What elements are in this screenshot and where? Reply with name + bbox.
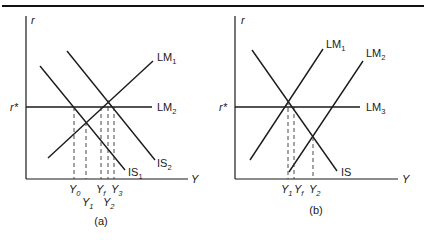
panel-b-lm3-label: LM3 bbox=[366, 101, 385, 116]
panel-a-tick-y0: Y0 bbox=[69, 183, 81, 198]
panel-a-r-star-label: r* bbox=[10, 101, 19, 113]
panel-b-lm1-label: LM1 bbox=[326, 38, 345, 53]
panel-b-tick-y1: Y1 bbox=[281, 183, 293, 198]
panel-b-is-label: IS bbox=[341, 166, 351, 178]
islm-diagram: r Y r* LM1 LM2 IS1 IS2 Y0 Y1 Yf Y2 Y3 (a… bbox=[0, 0, 428, 240]
panel-b-r-star-label: r* bbox=[219, 101, 228, 113]
panel-b-caption: (b) bbox=[309, 204, 322, 216]
panel-a-lm2-label: LM2 bbox=[157, 101, 176, 116]
panel-a-is2-label: IS2 bbox=[157, 157, 172, 172]
panel-a-tick-y3: Y3 bbox=[111, 183, 123, 198]
panel-b-lm2-label: LM2 bbox=[366, 47, 385, 62]
panel-b-x-axis-label: Y bbox=[402, 173, 410, 185]
panel-a-tick-y2: Y2 bbox=[103, 196, 115, 211]
panel-b-is-line bbox=[252, 50, 337, 171]
panel-a-is2-line bbox=[67, 51, 155, 160]
panel-b-y-axis-label: r bbox=[241, 14, 246, 26]
panel-b-lm1-line bbox=[250, 49, 323, 160]
panel-b-tick-yf: Yf bbox=[294, 183, 304, 198]
panel-a: r Y r* LM1 LM2 IS1 IS2 Y0 Y1 Yf Y2 Y3 (a… bbox=[10, 14, 199, 227]
panel-a-tick-y1: Y1 bbox=[82, 196, 94, 211]
panel-a-caption: (a) bbox=[94, 215, 107, 227]
panel-b: r Y r* LM1 LM2 LM3 IS Y1 Yf Y2 (b) bbox=[219, 14, 410, 216]
panel-a-y-axis-label: r bbox=[31, 14, 36, 26]
panel-a-lm1-line bbox=[48, 61, 153, 158]
panel-b-tick-y2: Y2 bbox=[309, 183, 321, 198]
panel-a-lm1-label: LM1 bbox=[157, 51, 176, 66]
panel-a-x-axis-label: Y bbox=[191, 173, 199, 185]
